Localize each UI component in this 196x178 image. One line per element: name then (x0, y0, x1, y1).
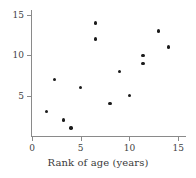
x-tick-label: 15 (172, 144, 183, 153)
data-point (45, 110, 48, 113)
data-point (118, 70, 121, 73)
x-axis-line (31, 136, 186, 137)
data-point (94, 37, 97, 40)
y-axis-line (31, 10, 32, 137)
y-tick-mark (27, 96, 31, 97)
scatter-chart: 051015 51015 Rank of age (years) (0, 0, 196, 178)
data-point (108, 102, 111, 105)
x-tick-mark (129, 137, 130, 141)
data-point (62, 118, 65, 121)
y-tick-mark (27, 55, 31, 56)
y-tick-label: 5 (18, 91, 24, 100)
y-tick-mark (27, 15, 31, 16)
y-tick-label: 10 (13, 51, 24, 60)
data-point (141, 54, 144, 57)
data-point (79, 86, 82, 89)
x-tick-label: 0 (29, 144, 35, 153)
data-point (128, 94, 131, 97)
y-tick-label: 15 (13, 10, 24, 19)
x-tick-mark (81, 137, 82, 141)
x-tick-label: 5 (78, 144, 84, 153)
x-tick-label: 10 (124, 144, 135, 153)
x-tick-mark (32, 137, 33, 141)
x-axis-title: Rank of age (years) (0, 157, 196, 168)
data-point (157, 29, 160, 32)
data-point (94, 21, 97, 24)
x-tick-mark (178, 137, 179, 141)
plot-area: 051015 51015 (0, 0, 196, 178)
data-point (141, 62, 144, 65)
data-point (69, 126, 72, 129)
data-point (53, 78, 56, 81)
data-point (167, 45, 170, 48)
